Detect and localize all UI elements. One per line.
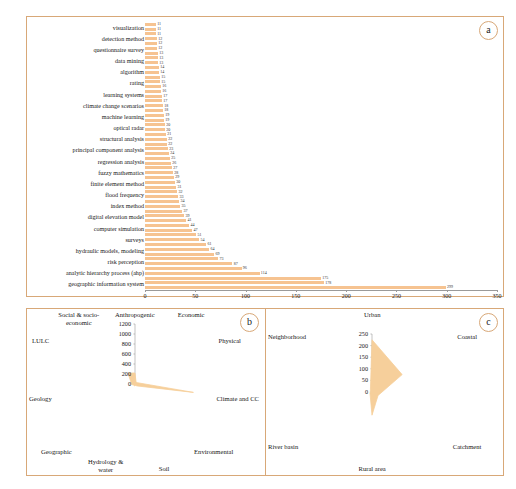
bar [145,114,164,117]
radar-category-label: Geology [29,395,52,403]
bar [145,195,178,198]
bar [145,186,176,189]
panel-c-frame: 050100150200250UrbanCoastalCatchmentRura… [265,308,504,476]
radar-tick-label: 200 [109,371,131,377]
radar-category-label: Coastal [457,333,477,341]
bar [145,157,170,160]
bar [145,37,157,40]
bar [145,210,182,213]
bar-value-label: 64 [211,247,215,251]
bar [145,128,165,131]
bar-category-label: regression analysis [98,159,144,165]
bar-category-label: principal component analysis [73,147,144,153]
bar-category-label: analytic hierarchy process (ahp) [66,270,144,276]
bar [145,253,214,256]
radar-category-label: Catchment [453,443,482,451]
bar-value-label: 96 [243,266,247,270]
radar-series-polygon [370,340,402,415]
bar [145,272,260,275]
radar-series-polygon [128,373,193,392]
bar-category-label: data mining [115,58,144,64]
radar-category-label: Economic [178,311,205,319]
bar-category-label: visualization [113,25,144,31]
radar-tick-label: 50 [346,377,368,383]
panel-c-badge: c [479,313,498,332]
bar [145,190,177,193]
bar [145,229,192,232]
radar-tick-label: 800 [109,341,131,347]
radar-category-label: Anthropogenic [115,311,155,319]
radar-category-label: Geographic [41,448,72,456]
bar [145,76,160,79]
radar-chart-c: 050100150200250UrbanCoastalCatchmentRura… [266,309,503,475]
x-axis-tick [246,290,247,292]
bar [145,143,167,146]
radar-tick-label: 250 [346,331,368,337]
bar [145,233,196,236]
bar [145,152,169,155]
bar-value-label: 73 [220,257,224,261]
bar [145,80,160,83]
bar-category-label: flood frequency [105,192,144,198]
bar [145,95,162,98]
bar [145,147,168,150]
bar [145,104,163,107]
figure-root: a visualizationdetection methodquestionn… [0,0,516,489]
bar [145,119,164,122]
x-axis-tick-label: 50 [192,293,198,299]
panel-a-badge: a [479,21,498,40]
bar [145,176,174,179]
radar-category-label: LULC [32,337,49,345]
bar-value-label: 299 [447,285,453,289]
bar [145,243,206,246]
bar-category-label: learning systems [103,92,144,98]
x-axis-tick [296,290,297,292]
bar-category-label: algorithm [120,69,144,75]
panel-b-badge: b [240,313,259,332]
bar [145,56,158,59]
bar [145,286,446,289]
x-axis-tick-label: 350 [493,293,502,299]
bar-category-label: climate change scenarios [83,103,144,109]
bar [145,85,161,88]
bar-category-label: finite element method [91,181,144,187]
bar-category-label: hydraulic models, modeling [76,248,144,254]
radar-chart-b: 020040060080010001200AnthropogenicEconom… [27,309,265,475]
radar-tick-label: 0 [109,381,131,387]
bar-chart-category-labels: visualizationdetection methodquestionnai… [26,16,144,297]
bar [145,138,167,141]
bar [145,171,173,174]
bar-value-label: 87 [234,262,238,266]
radar-category-label: Rural area [359,465,386,473]
radar-tick-label: 100 [346,366,368,372]
x-axis-tick [346,290,347,292]
bar [145,109,163,112]
bar-category-label: index method [111,203,144,209]
bar [145,181,175,184]
bar [145,214,184,217]
bar [145,99,162,102]
bar [145,238,199,241]
x-axis-tick [396,290,397,292]
radar-category-label: Hydrology &water [77,458,135,473]
radar-category-label: Social & socio-economic [50,311,108,326]
bar [145,123,165,126]
x-axis-tick [195,290,196,292]
x-axis-tick-label: 250 [392,293,401,299]
bar-value-label: 178 [325,281,331,285]
bar-category-label: machine learning [102,114,144,120]
radar-tick-label: 400 [109,361,131,367]
bar-category-label: digital elevation model [88,214,144,220]
bar [145,47,157,50]
radar-category-label: Climate and CC [216,395,259,403]
bar [145,277,321,280]
bar-chart: visualizationdetection methodquestionnai… [26,16,504,297]
x-axis-tick-label: 300 [442,293,451,299]
bar [145,205,180,208]
bar [145,32,156,35]
radar-tick-label: 1000 [109,331,131,337]
x-axis-line [145,290,497,291]
bar [145,23,156,26]
radar-tick-label: 200 [346,343,368,349]
bar [145,166,172,169]
